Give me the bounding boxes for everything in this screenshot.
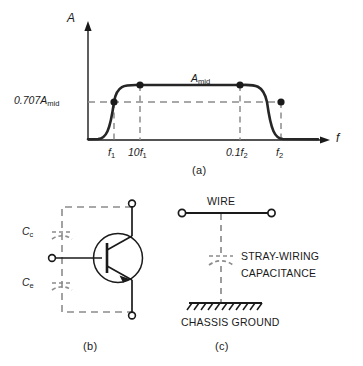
half-power-gain-label: 0.707Amid bbox=[14, 95, 59, 106]
cap-collector-symbol: C bbox=[22, 225, 30, 237]
half-power-subscript: mid bbox=[47, 99, 59, 108]
figure-svg bbox=[0, 0, 363, 366]
chassis-ground-label: CHASSIS GROUND bbox=[181, 317, 279, 328]
tick-0.1f2-subscript: 2 bbox=[244, 151, 248, 160]
cap-emitter-symbol: C bbox=[22, 276, 30, 288]
tick-label-f2: f2 bbox=[276, 147, 283, 158]
tick-f2-subscript: 2 bbox=[279, 151, 283, 160]
wire-label: WIRE bbox=[207, 196, 235, 207]
chassis-ground-symbol bbox=[187, 303, 262, 310]
panel-b-caption-text: (b) bbox=[83, 340, 97, 352]
tick-label-10f1: 10f1 bbox=[128, 147, 147, 158]
terminal-emitter bbox=[129, 312, 136, 319]
tick-label-0.1f2: 0.1f2 bbox=[226, 147, 248, 158]
dashed-path-collector bbox=[62, 207, 132, 257]
plateau-gain-subscript: mid bbox=[198, 77, 210, 86]
stray-capacitance-label-line1: STRAY-WIRING bbox=[241, 251, 319, 262]
y-axis-arrowhead bbox=[84, 21, 91, 31]
terminal-base bbox=[49, 255, 56, 262]
gain-response-curve bbox=[88, 85, 318, 139]
capacitor-label-collector: Cc bbox=[22, 226, 33, 237]
half-power-symbol: 0.707A bbox=[14, 94, 47, 106]
figure-container: A f Amid 0.707Amid f1 10f1 0.1f2 f2 (a) … bbox=[0, 0, 363, 366]
panel-c-caption: (c) bbox=[215, 341, 229, 352]
tick-10f1-symbol: 10f bbox=[128, 146, 143, 158]
panel-b-circuit bbox=[49, 200, 143, 319]
cap-emitter-subscript: e bbox=[30, 281, 34, 290]
x-axis-label: f bbox=[336, 132, 339, 144]
marker-f2 bbox=[277, 98, 284, 105]
half-power-value: 0.707Amid bbox=[14, 94, 59, 106]
marker-f1 bbox=[110, 98, 117, 105]
y-axis-label: A bbox=[67, 12, 75, 24]
x-axis-arrowhead bbox=[320, 136, 330, 143]
terminal-wire-left bbox=[178, 209, 185, 216]
panel-c-caption-text: (c) bbox=[215, 340, 229, 352]
transistor-emitter-lead bbox=[107, 266, 132, 280]
dashed-path-emitter bbox=[62, 257, 132, 312]
panel-a-caption: (a) bbox=[192, 165, 206, 176]
stray-capacitance-label-line2: CAPACITANCE bbox=[241, 268, 316, 279]
panel-a-caption-text: (a) bbox=[192, 164, 206, 176]
panel-b-caption: (b) bbox=[83, 341, 97, 352]
transistor-collector-lead bbox=[107, 236, 132, 250]
marker-0.1f2 bbox=[236, 81, 243, 88]
plateau-gain-label: Amid bbox=[191, 73, 210, 84]
terminal-collector bbox=[129, 200, 136, 207]
tick-f1-subscript: 1 bbox=[111, 151, 115, 160]
cap-collector-subscript: c bbox=[30, 230, 34, 239]
tick-label-f1: f1 bbox=[108, 147, 115, 158]
capacitor-label-emitter: Ce bbox=[22, 277, 34, 288]
tick-10f1-subscript: 1 bbox=[143, 151, 147, 160]
tick-0.1f2-symbol: 0.1f bbox=[226, 146, 244, 158]
terminal-wire-right bbox=[268, 209, 275, 216]
plateau-gain-symbol: A bbox=[191, 72, 198, 84]
marker-10f1 bbox=[136, 81, 143, 88]
capacitor-symbol-stray bbox=[209, 256, 233, 265]
